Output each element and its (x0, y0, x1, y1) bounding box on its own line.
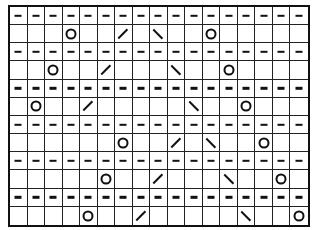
chart-cell (255, 98, 273, 116)
purl-dash-icon (50, 14, 57, 16)
purl-dash-icon (190, 51, 197, 53)
purl-dash-icon (67, 123, 74, 125)
chart-cell (10, 98, 28, 116)
chart-cell (80, 43, 98, 61)
purl-dash-icon (32, 196, 39, 198)
chart-cell (168, 152, 186, 170)
chart-cell (28, 7, 46, 25)
purl-dash-icon (15, 51, 22, 53)
chart-cell (273, 80, 291, 98)
chart-cell (28, 98, 46, 116)
chart-cell (28, 134, 46, 152)
chart-cell (203, 61, 221, 79)
left-slant-decrease-icon (241, 210, 252, 221)
chart-cell (98, 61, 116, 79)
chart-cell (133, 7, 151, 25)
purl-dash-icon (120, 87, 127, 89)
chart-cell (185, 80, 203, 98)
purl-dash-icon (120, 14, 127, 16)
yarn-over-circle-icon (223, 65, 234, 76)
chart-cell (290, 43, 308, 61)
purl-dash-icon (155, 14, 162, 16)
chart-cell (290, 80, 308, 98)
chart-cell (63, 116, 81, 134)
chart-cell (10, 61, 28, 79)
purl-dash-icon (155, 160, 162, 162)
chart-cell (203, 25, 221, 43)
chart-cell (133, 25, 151, 43)
chart-cell (45, 98, 63, 116)
purl-dash-icon (208, 123, 215, 125)
right-slant-decrease-icon (100, 65, 111, 76)
chart-cell (273, 61, 291, 79)
purl-dash-icon (173, 160, 180, 162)
yarn-over-circle-icon (206, 28, 217, 39)
chart-cell (28, 207, 46, 225)
purl-dash-icon (15, 123, 22, 125)
chart-cell (185, 61, 203, 79)
chart-cell (45, 116, 63, 134)
chart-cell (220, 80, 238, 98)
chart-cell (45, 134, 63, 152)
purl-dash-icon (243, 123, 250, 125)
purl-dash-icon (32, 87, 39, 89)
chart-cell (203, 43, 221, 61)
purl-dash-icon (190, 196, 197, 198)
chart-cell (10, 116, 28, 134)
chart-cell (185, 170, 203, 188)
purl-dash-icon (278, 14, 285, 16)
purl-dash-icon (278, 51, 285, 53)
chart-cell (238, 207, 256, 225)
chart-cell (255, 7, 273, 25)
purl-dash-icon (67, 160, 74, 162)
chart-cell (45, 189, 63, 207)
chart-cell (290, 207, 308, 225)
purl-dash-icon (173, 123, 180, 125)
purl-dash-icon (155, 87, 162, 89)
purl-dash-icon (243, 14, 250, 16)
chart-cell (80, 61, 98, 79)
purl-dash-icon (155, 51, 162, 53)
purl-dash-icon (208, 196, 215, 198)
purl-dash-icon (102, 196, 109, 198)
purl-dash-icon (296, 123, 303, 125)
purl-dash-icon (120, 160, 127, 162)
chart-cell (203, 134, 221, 152)
chart-cell (273, 170, 291, 188)
yarn-over-circle-icon (30, 101, 41, 112)
chart-cell (80, 116, 98, 134)
chart-cell (203, 80, 221, 98)
chart-cell (45, 25, 63, 43)
chart-cell (168, 43, 186, 61)
chart-cell (255, 189, 273, 207)
chart-cell (133, 134, 151, 152)
chart-cell (255, 80, 273, 98)
chart-cell (63, 152, 81, 170)
chart-cell (290, 170, 308, 188)
chart-cell (115, 25, 133, 43)
chart-cell (98, 7, 116, 25)
yarn-over-circle-icon (258, 137, 269, 148)
chart-cell (115, 61, 133, 79)
chart-cell (290, 116, 308, 134)
chart-cell (10, 43, 28, 61)
purl-dash-icon (190, 160, 197, 162)
purl-dash-icon (173, 196, 180, 198)
chart-cell (10, 207, 28, 225)
right-slant-decrease-icon (136, 210, 147, 221)
purl-dash-icon (15, 196, 22, 198)
purl-dash-icon (32, 160, 39, 162)
chart-cell (203, 116, 221, 134)
purl-dash-icon (137, 14, 144, 16)
left-slant-decrease-icon (206, 137, 217, 148)
chart-cell (273, 207, 291, 225)
purl-dash-icon (296, 160, 303, 162)
chart-cell (290, 152, 308, 170)
purl-dash-icon (32, 51, 39, 53)
purl-dash-icon (296, 51, 303, 53)
chart-cell (255, 170, 273, 188)
purl-dash-icon (278, 87, 285, 89)
chart-cell (255, 116, 273, 134)
chart-cell (63, 207, 81, 225)
chart-cell (133, 152, 151, 170)
